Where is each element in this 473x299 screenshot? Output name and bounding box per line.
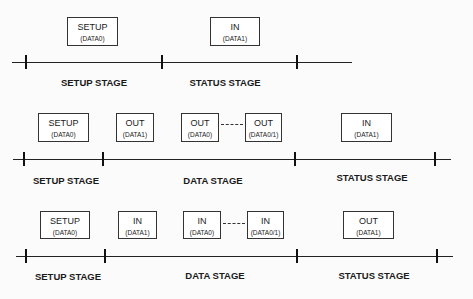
stage-tick — [296, 55, 298, 69]
packet-data: (DATA0) — [41, 229, 89, 237]
stage-tick — [294, 152, 296, 166]
packet-box: IN (DATA0) — [183, 211, 221, 239]
timeline — [12, 62, 352, 63]
packet-data: (DATA0) — [182, 131, 218, 139]
packet-pid: OUT — [117, 118, 153, 128]
packet-box: SETUP (DATA0) — [38, 113, 89, 142]
stage-tick — [436, 249, 438, 263]
packet-data: (DATA0) — [68, 35, 117, 43]
packet-pid: IN — [211, 22, 259, 32]
stage-tick — [25, 249, 27, 263]
stage-label: STATUS STAGE — [189, 77, 260, 88]
packet-data: (DATA0/1) — [246, 131, 281, 139]
packet-box: OUT (DATA0) — [181, 113, 219, 142]
stage-label: SETUP STAGE — [61, 77, 127, 88]
stage-label: SETUP STAGE — [35, 271, 101, 282]
packet-box: OUT (DATA0/1) — [245, 113, 282, 142]
packet-box: OUT (DATA1) — [343, 211, 394, 239]
packet-pid: IN — [119, 216, 156, 226]
packet-data: (DATA1) — [119, 229, 156, 237]
packet-pid: SETUP — [41, 216, 89, 226]
stage-tick — [102, 152, 104, 166]
timeline — [16, 256, 453, 257]
packet-data: (DATA0) — [39, 131, 88, 139]
stage-tick — [296, 249, 298, 263]
stage-label: STATUS STAGE — [336, 172, 407, 183]
stage-tick — [434, 152, 436, 166]
stage-label: SETUP STAGE — [33, 175, 99, 186]
packet-pid: OUT — [246, 118, 281, 128]
stage-tick — [23, 152, 25, 166]
packet-pid: IN — [248, 216, 283, 226]
stage-label: STATUS STAGE — [338, 270, 409, 281]
timeline — [13, 159, 451, 160]
packet-data: (DATA0) — [184, 229, 220, 237]
packet-pid: SETUP — [68, 22, 117, 32]
packet-box: IN (DATA1) — [341, 113, 392, 142]
stage-tick — [104, 249, 106, 263]
continuation-dashes — [221, 124, 243, 125]
packet-pid: OUT — [344, 216, 393, 226]
packet-data: (DATA1) — [117, 131, 153, 139]
packet-pid: OUT — [182, 118, 218, 128]
packet-data: (DATA0/1) — [248, 229, 283, 237]
packet-box: OUT (DATA1) — [116, 113, 154, 142]
stage-tick — [25, 55, 27, 69]
packet-box: IN (DATA1) — [210, 17, 260, 46]
packet-box: SETUP (DATA0) — [67, 17, 118, 46]
packet-box: SETUP (DATA0) — [40, 211, 90, 239]
stage-tick — [161, 55, 163, 69]
packet-data: (DATA1) — [342, 131, 391, 139]
stage-label: DATA STAGE — [185, 270, 244, 281]
continuation-dashes — [223, 223, 245, 224]
packet-box: IN (DATA0/1) — [247, 211, 284, 239]
packet-box: IN (DATA1) — [118, 211, 157, 239]
packet-pid: IN — [342, 118, 391, 128]
packet-data: (DATA1) — [344, 229, 393, 237]
packet-pid: SETUP — [39, 118, 88, 128]
stage-label: DATA STAGE — [183, 175, 242, 186]
packet-data: (DATA1) — [211, 35, 259, 43]
packet-pid: IN — [184, 216, 220, 226]
